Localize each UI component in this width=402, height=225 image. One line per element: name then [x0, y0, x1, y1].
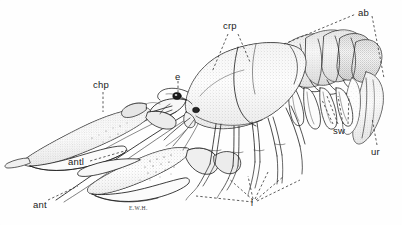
label-chp: chp [93, 80, 109, 90]
crayfish-figure: chp e crp ab sw ur antl ant l E.W.H. [0, 0, 402, 225]
label-antl: antl [68, 157, 84, 167]
leader-l-f [257, 180, 300, 201]
leader-l-d [255, 172, 268, 199]
leader-l-a [196, 196, 253, 202]
label-sw: sw [333, 126, 345, 136]
label-l: l [251, 199, 253, 208]
label-ab: ab [358, 8, 369, 18]
carapace-group [185, 43, 306, 129]
leader-l-e [256, 176, 284, 200]
label-e: e [175, 72, 180, 82]
crayfish-illustration [0, 0, 402, 225]
leader-ant [48, 186, 78, 200]
label-ant: ant [33, 200, 47, 210]
label-crp: crp [223, 21, 237, 31]
artist-signature: E.W.H. [129, 205, 148, 211]
leader-l-b [228, 178, 253, 200]
label-ur: ur [371, 147, 380, 157]
